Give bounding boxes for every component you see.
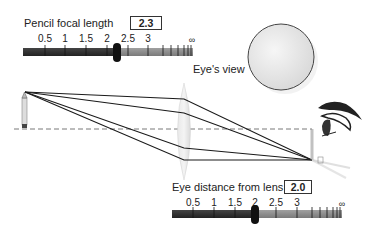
light-rays (25, 92, 312, 160)
pencil-focal-length-knob (113, 43, 121, 62)
eye-icon (318, 102, 362, 136)
pencil (22, 92, 27, 128)
lens (178, 83, 191, 180)
eye-distance-knob (251, 205, 259, 224)
eye-distance-slider[interactable] (172, 205, 342, 224)
eyes-view-circle (248, 24, 318, 94)
pencil-image (312, 129, 350, 178)
optics-diagram (0, 0, 376, 239)
pencil-focal-length-slider[interactable] (23, 43, 193, 62)
